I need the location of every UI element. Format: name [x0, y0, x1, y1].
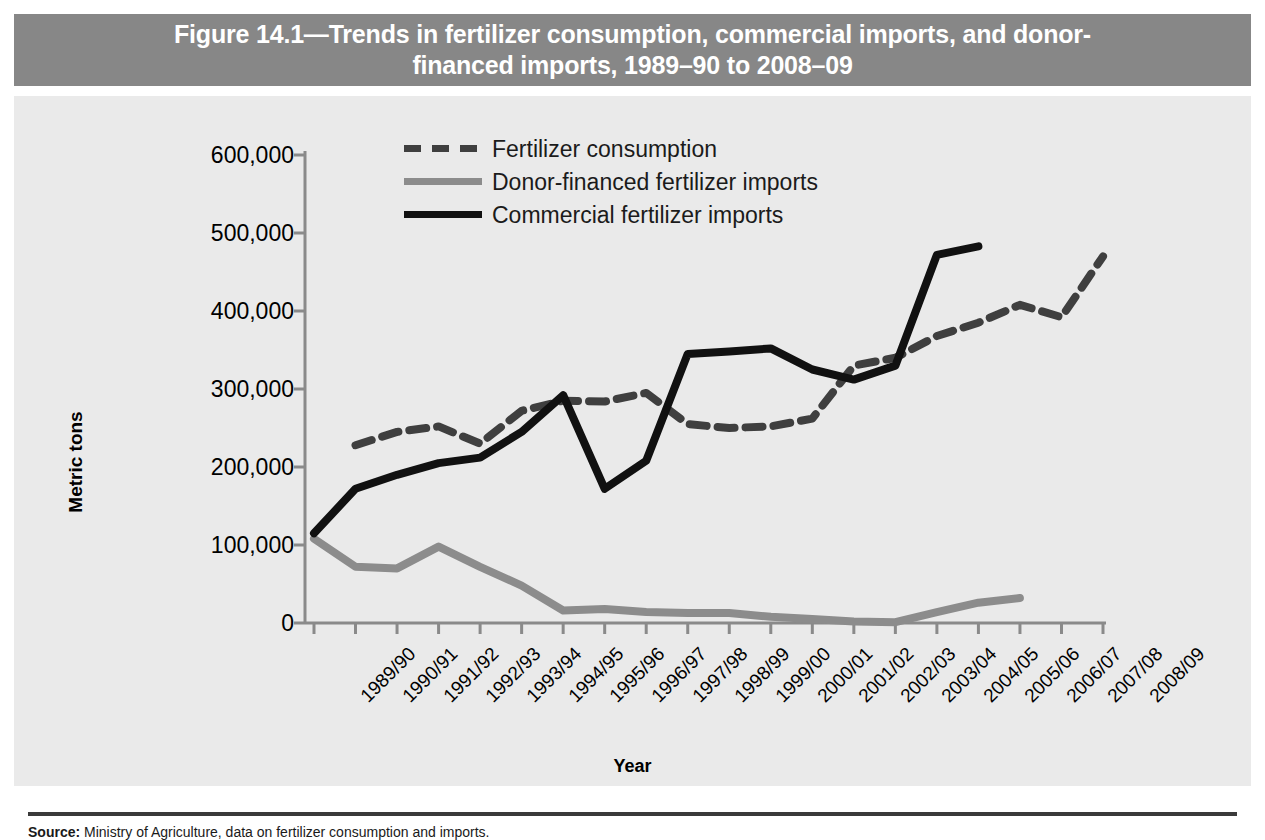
legend-swatch-grey-line-icon	[404, 173, 482, 191]
figure-title-bar: Figure 14.1—Trends in fertilizer consump…	[14, 14, 1251, 86]
legend-label-commercial-imports: Commercial fertilizer imports	[492, 202, 783, 228]
chart-legend: Fertilizer consumption Donor-financed fe…	[404, 132, 818, 231]
source-text: Ministry of Agriculture, data on fertili…	[80, 824, 489, 840]
figure-title-line-2: financed imports, 1989–90 to 2008–09	[174, 50, 1091, 81]
footer-divider	[28, 812, 1237, 816]
plot-area: Metric tons Year 0100,000200,000300,0004…	[14, 96, 1251, 786]
source-note: Source: Ministry of Agriculture, data on…	[28, 824, 1237, 840]
legend-item-fertilizer-consumption: Fertilizer consumption	[404, 132, 818, 165]
legend-swatch-black-line-icon	[404, 206, 482, 224]
legend-item-donor-financed-imports: Donor-financed fertilizer imports	[404, 165, 818, 198]
legend-label-donor-financed-imports: Donor-financed fertilizer imports	[492, 169, 818, 195]
figure-page: Figure 14.1—Trends in fertilizer consump…	[0, 0, 1265, 840]
figure-title-line-1: Figure 14.1—Trends in fertilizer consump…	[174, 19, 1091, 50]
chart-panel: Metric tons Year 0100,000200,000300,0004…	[14, 96, 1251, 786]
source-label: Source:	[28, 824, 80, 840]
legend-item-commercial-imports: Commercial fertilizer imports	[404, 198, 818, 231]
series-line-donor-financed-imports	[314, 539, 1020, 622]
legend-swatch-dashed-icon	[404, 140, 482, 158]
figure-title: Figure 14.1—Trends in fertilizer consump…	[174, 19, 1091, 81]
legend-label-fertilizer-consumption: Fertilizer consumption	[492, 136, 717, 162]
